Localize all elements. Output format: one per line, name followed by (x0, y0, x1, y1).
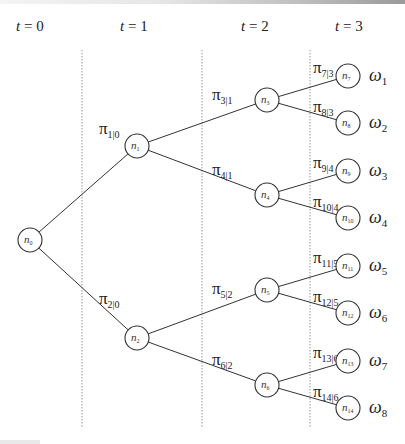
edge-n4-n9 (279, 174, 337, 191)
probability-label-12-given-5: π12|5 (313, 287, 339, 308)
probability-label-14-given-6: π14|6 (313, 382, 339, 403)
edge-n0-n2 (39, 248, 128, 330)
edge-n3-n7 (279, 79, 337, 96)
outcome-omega-3: ω3 (369, 160, 388, 182)
edge-n5-n11 (279, 269, 337, 286)
node-n7: n7 (336, 64, 360, 88)
probability-label-8-given-3: π8|3 (313, 97, 334, 118)
node-n13: n13 (336, 349, 360, 373)
node-n3: n3 (255, 88, 279, 112)
node-n10: n10 (336, 206, 360, 230)
outcome-labels: ω1ω2ω3ω4ω5ω6ω7ω8 (369, 65, 388, 419)
probability-label-7-given-3: π7|3 (313, 58, 334, 79)
node-n0: n0 (18, 228, 42, 252)
node-n6: n6 (255, 373, 279, 397)
probability-label-3-given-1: π3|1 (212, 85, 233, 106)
node-n2: n2 (125, 326, 149, 350)
node-n9: n9 (336, 159, 360, 183)
probability-label-1-given-0: π1|0 (99, 119, 120, 140)
probability-label-10-given-4: π10|4 (313, 192, 339, 213)
outcome-omega-6: ω6 (369, 302, 388, 324)
tree-edges (39, 79, 337, 404)
probability-label-4-given-1: π4|1 (212, 160, 233, 181)
edge-n1-n3 (148, 104, 255, 142)
node-n1: n1 (125, 134, 149, 158)
tree-nodes: n0n1n2n3n4n5n6n7n8n9n10n11n12n13n14 (18, 64, 360, 420)
scenario-tree: π1|0π2|0π3|1π4|1π5|2π6|2π7|3π8|3π9|4π10|… (0, 0, 405, 444)
outcome-omega-2: ω2 (369, 112, 387, 134)
probability-label-2-given-0: π2|0 (99, 289, 120, 310)
bottom-mark (0, 440, 40, 444)
edge-n6-n13 (279, 364, 337, 381)
probability-label-6-given-2: π6|2 (212, 350, 233, 371)
probability-label-5-given-2: π5|2 (212, 279, 233, 300)
node-n8: n8 (336, 111, 360, 135)
outcome-omega-4: ω4 (369, 207, 388, 229)
outcome-omega-5: ω5 (369, 255, 388, 277)
outcome-omega-7: ω7 (369, 350, 388, 372)
node-n14: n14 (336, 396, 360, 420)
node-n12: n12 (336, 301, 360, 325)
node-n5: n5 (255, 278, 279, 302)
outcome-omega-8: ω8 (369, 397, 388, 419)
node-n11: n11 (336, 254, 360, 278)
edge-n0-n1 (39, 154, 128, 232)
probability-label-13-given-6: π13|6 (313, 343, 339, 364)
node-n4: n4 (255, 183, 279, 207)
probability-label-9-given-4: π9|4 (313, 153, 334, 174)
probability-label-11-given-5: π11|5 (313, 248, 338, 269)
outcome-omega-1: ω1 (369, 65, 387, 87)
